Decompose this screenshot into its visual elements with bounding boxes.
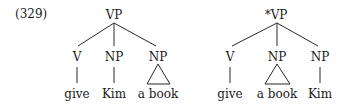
root-node: VP: [106, 9, 123, 21]
triangle-icon: [265, 64, 290, 84]
leaf-word: Kim: [308, 88, 332, 100]
leaf-word: give: [64, 88, 89, 100]
child-node: NP: [311, 51, 330, 63]
child-node: NP: [149, 51, 168, 63]
leaf-word: give: [217, 88, 242, 100]
child-node: NP: [268, 51, 287, 63]
child-node: V: [226, 51, 235, 63]
root-node: *VP: [265, 9, 288, 21]
leaf-word: a book: [138, 88, 178, 100]
leaf-word: Kim: [102, 88, 126, 100]
child-node: NP: [105, 51, 124, 63]
leaf-word: a book: [257, 88, 297, 100]
triangle-icon: [147, 64, 170, 84]
child-node: V: [73, 51, 82, 63]
